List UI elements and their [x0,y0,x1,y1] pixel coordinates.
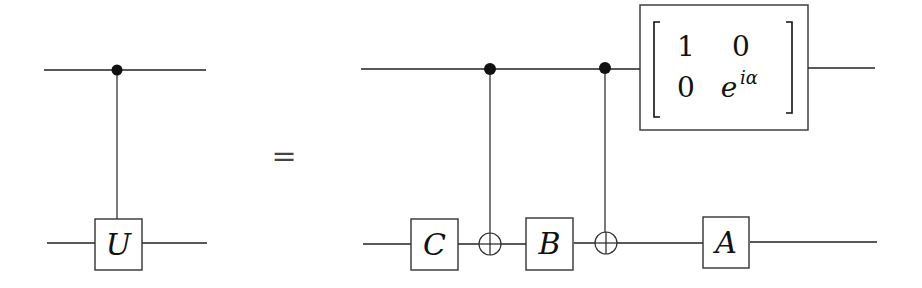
gate-c-label: C [423,227,446,262]
matrix-entry-2-2-base: e [721,71,738,104]
quantum-circuit-diagram: U = C B A [0,0,922,288]
gate-b-label: B [537,226,560,261]
left-circuit: U [44,65,207,271]
matrix-entry-2-1: 0 [677,71,695,104]
matrix-entry-1-2: 0 [732,30,750,63]
matrix-entry-1-1: 1 [677,30,695,63]
matrix-entry-2-2-exponent: iα [740,67,758,88]
control-dot [112,65,123,76]
gate-phase-matrix [640,5,808,130]
gate-u-label: U [106,227,133,262]
gate-a-label: A [712,225,737,260]
cnot-1-control-dot [484,63,496,75]
cnot-2-control-dot [599,62,611,74]
right-circuit: C B A 1 0 0 e iα [361,5,877,270]
equals-sign: = [271,138,296,173]
